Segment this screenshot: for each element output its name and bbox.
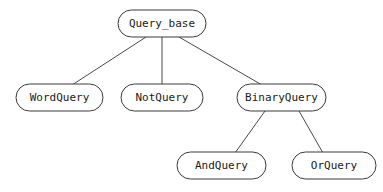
node-query_base[interactable]: Query_base: [118, 10, 206, 37]
node-and_query[interactable]: AndQuery: [177, 152, 266, 179]
node-not_query[interactable]: NotQuery: [121, 84, 203, 111]
node-label-not_query: NotQuery: [136, 91, 189, 104]
node-word_query[interactable]: WordQuery: [16, 84, 103, 111]
node-label-query_base: Query_base: [129, 17, 195, 30]
node-label-or_query: OrQuery: [311, 159, 358, 172]
node-label-word_query: WordQuery: [30, 91, 90, 104]
node-or_query[interactable]: OrQuery: [292, 152, 376, 179]
node-label-and_query: AndQuery: [195, 159, 248, 172]
edge-binary_query-and_query: [235, 111, 265, 153]
node-label-binary_query: BinaryQuery: [245, 91, 318, 104]
edge-query_base-binary_query: [179, 37, 262, 85]
class-hierarchy-diagram: Query_baseWordQueryNotQueryBinaryQueryAn…: [0, 0, 383, 192]
edge-query_base-word_query: [72, 37, 146, 85]
nodes-group: Query_baseWordQueryNotQueryBinaryQueryAn…: [16, 10, 376, 179]
diagram-canvas: Query_baseWordQueryNotQueryBinaryQueryAn…: [0, 0, 383, 192]
node-binary_query[interactable]: BinaryQuery: [237, 84, 326, 111]
edge-binary_query-or_query: [299, 111, 323, 153]
